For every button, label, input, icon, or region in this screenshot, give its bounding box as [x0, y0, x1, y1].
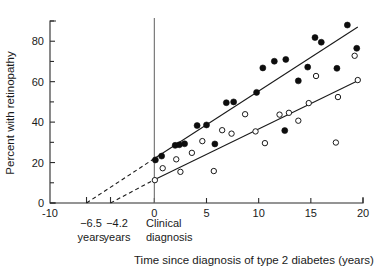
onset-lower-unit-label: years [104, 231, 131, 243]
data-point-open-circle [277, 112, 282, 117]
y-axis-tick-label: 80 [32, 35, 44, 47]
data-point-open-circle [200, 138, 205, 143]
data-point-open-circle [296, 118, 301, 123]
y-axis-tick-labels: 020406080 [32, 35, 44, 209]
data-point-filled-circle [344, 22, 350, 28]
data-point-open-circle [160, 166, 165, 171]
data-point-open-circle [174, 157, 179, 162]
data-point-filled-circle [212, 141, 218, 147]
data-point-filled-circle [305, 64, 311, 70]
data-point-open-circle [219, 128, 224, 133]
axes-group [50, 21, 363, 203]
data-point-filled-circle [282, 128, 288, 134]
data-point-open-circle [229, 131, 234, 136]
x-axis-ticks [87, 197, 363, 203]
x-axis-tick-label: 20 [357, 207, 369, 219]
data-point-filled-circle [182, 141, 188, 147]
data-point-open-circle [333, 140, 338, 145]
data-point-filled-circle [159, 153, 165, 159]
data-point-open-circle [152, 177, 157, 182]
onset-upper-value-label: −6.5 [80, 217, 102, 229]
x-axis-tick-label: 15 [305, 207, 317, 219]
data-point-open-circle [352, 53, 357, 58]
data-point-open-circle [189, 150, 194, 155]
x-axis-title: Time since diagnosis of type 2 diabetes … [134, 254, 374, 266]
chart-svg: 020406080 -1005101520 −6.5 years −4.2 ye… [0, 0, 386, 271]
data-point-filled-circle [194, 123, 200, 129]
data-point-filled-circle [223, 100, 229, 106]
y-axis-tick-label: 40 [32, 116, 44, 128]
y-axis-title: Percent with retinopathy [4, 51, 16, 175]
data-point-filled-circle [295, 78, 301, 84]
data-point-filled-circle [271, 58, 277, 64]
data-point-open-circle [211, 168, 216, 173]
data-point-filled-circle [312, 35, 318, 41]
data-point-filled-circle [354, 45, 360, 51]
series-filled-circles-points [152, 22, 359, 163]
data-point-open-circle [178, 169, 183, 174]
data-point-filled-circle [231, 99, 237, 105]
y-axis-line [50, 21, 56, 203]
extrapolation-line-series-0 [87, 159, 155, 203]
data-point-open-circle [242, 112, 247, 117]
onset-lower-value-label: −4.2 [106, 217, 128, 229]
data-point-filled-circle [260, 65, 266, 71]
y-axis-ticks [50, 21, 55, 203]
clinical-diagnosis-line2-label: diagnosis [146, 231, 193, 243]
onset-upper-unit-label: years [78, 231, 105, 243]
retinopathy-scatter-figure: 020406080 -1005101520 −6.5 years −4.2 ye… [0, 0, 386, 271]
fit-lines-group [87, 27, 358, 203]
data-point-open-circle [355, 77, 360, 82]
clinical-diagnosis-line1-label: Clinical [146, 217, 181, 229]
data-point-open-circle [335, 94, 340, 99]
y-axis-tick-label: 60 [32, 76, 44, 88]
data-point-filled-circle [334, 65, 340, 71]
data-point-filled-circle [254, 89, 260, 95]
y-axis-tick-label: 20 [32, 157, 44, 169]
data-point-open-circle [262, 140, 267, 145]
data-point-open-circle [286, 110, 291, 115]
x-axis-annotations: −6.5 years −4.2 years Clinical diagnosis [78, 217, 193, 243]
data-point-open-circle [306, 100, 311, 105]
data-point-open-circle [253, 129, 258, 134]
series-open-circles-points [152, 53, 360, 183]
data-point-filled-circle [283, 56, 289, 62]
x-axis-tick-label: 5 [203, 207, 209, 219]
data-point-filled-circle [152, 157, 158, 163]
x-axis-tick-label: 10 [253, 207, 265, 219]
x-axis-tick-label: -10 [42, 207, 58, 219]
data-point-open-circle [313, 73, 318, 78]
data-point-filled-circle [204, 122, 210, 128]
data-point-filled-circle [318, 39, 324, 45]
